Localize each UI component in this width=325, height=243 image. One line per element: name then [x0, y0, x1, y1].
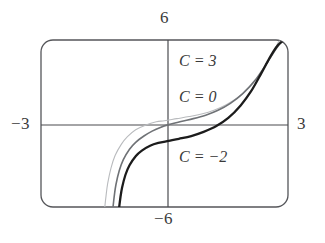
plot-frame [41, 40, 288, 207]
axis-tick-label-top: 6 [160, 8, 169, 28]
curve-label-c-minus-2: C = −2 [179, 148, 227, 166]
plot-svg [0, 0, 325, 243]
axis-tick-label-bottom: −6 [154, 209, 173, 229]
curve-label-c-3: C = 3 [179, 52, 216, 70]
axis-tick-label-right: 3 [297, 114, 306, 134]
axis-tick-label-left: −3 [11, 114, 30, 134]
curve-label-c-0: C = 0 [179, 88, 216, 106]
figure-canvas: 6 −6 −3 3 C = 3 C = 0 C = −2 [0, 0, 325, 243]
